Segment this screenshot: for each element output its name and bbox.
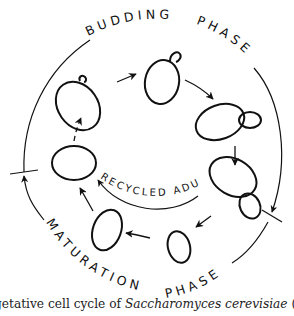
cell-1 xyxy=(47,73,110,139)
arrow-4-to-5 xyxy=(196,216,211,227)
outer-arc-bottom-left xyxy=(24,176,44,220)
cell-7 xyxy=(52,146,96,180)
outer-arc-bottom-right xyxy=(232,222,268,263)
outer-arc-right xyxy=(254,68,282,212)
cell-6 xyxy=(87,205,128,254)
cell-5 xyxy=(164,229,194,266)
caption-suffix: (redrawn fi xyxy=(288,297,294,311)
cycle-arrows xyxy=(74,74,235,238)
caption-prefix: getative cell cycle of xyxy=(0,297,125,311)
arrow-2-to-3 xyxy=(185,80,213,99)
arrow-5-to-6 xyxy=(126,233,150,238)
budding-phase-label-2: PHASE xyxy=(195,13,256,59)
budding-phase-label-1: BUDDING xyxy=(83,6,174,38)
arrow-1-to-2 xyxy=(117,74,136,82)
figure-caption: getative cell cycle of Saccharomyces cer… xyxy=(0,297,294,311)
cell-2 xyxy=(141,52,182,106)
cell-4 xyxy=(202,149,264,222)
arrow-6-to-7 xyxy=(80,188,93,211)
maturation-phase-label-2: PHASE xyxy=(163,264,223,301)
caption-species: Saccharomyces cerevisiae xyxy=(125,297,288,311)
yeast-cell-cycle-diagram: BUDDING PHASE MATURATION PHASE RECYCLED … xyxy=(0,0,294,316)
cell-3 xyxy=(191,97,261,146)
